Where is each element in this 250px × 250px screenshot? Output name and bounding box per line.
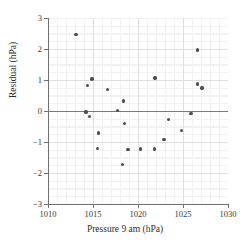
y-axis-tick [44,173,48,174]
x-axis-tick-label: 1030 [220,209,237,219]
data-point [97,131,100,134]
y-axis-tick [44,18,48,19]
y-axis-tick [44,142,48,143]
gridline-horizontal [48,173,228,174]
y-axis-tick [44,49,48,50]
data-point [74,33,77,36]
data-point [84,110,87,113]
gridline-horizontal [48,142,228,143]
y-axis-tick-label: −1 [33,137,42,147]
data-point [153,147,156,150]
x-axis-tick [93,204,94,208]
x-axis-tick [183,204,184,208]
x-axis-tick-label: 1010 [40,209,57,219]
data-point [180,129,183,132]
data-point [196,48,199,51]
y-axis-tick-label: −2 [33,168,42,178]
y-axis-tick-label: 2 [38,44,42,54]
data-point [162,138,165,141]
data-point [90,77,93,80]
x-axis-tick-label: 1020 [130,209,147,219]
data-point [122,99,125,102]
scatter-plot-figure: 101010151020102510303210−1−2−3 Pressure … [0,0,250,250]
x-axis-tick-label: 1015 [85,209,102,219]
data-point [88,115,91,118]
zero-reference-line [48,111,228,112]
y-axis-tick [44,80,48,81]
y-axis-tick [44,204,48,205]
x-axis-tick-label: 1025 [175,209,192,219]
gridline-horizontal [48,80,228,81]
data-point [139,147,142,150]
y-axis-tick-label: 0 [38,106,42,116]
data-point [196,82,199,85]
data-point [200,86,203,89]
x-axis-label: Pressure 9 am (hPa) [0,224,250,234]
data-point [153,76,156,79]
x-axis-tick [138,204,139,208]
y-axis-tick-label: 3 [38,13,42,23]
y-axis-tick-label: −3 [33,199,42,209]
y-axis-tick-label: 1 [38,75,42,85]
gridline-horizontal [48,49,228,50]
x-axis-tick [48,204,49,208]
y-axis-tick [44,111,48,112]
y-axis-label: Residual (hPa) [8,10,18,130]
x-axis-tick [228,204,229,208]
